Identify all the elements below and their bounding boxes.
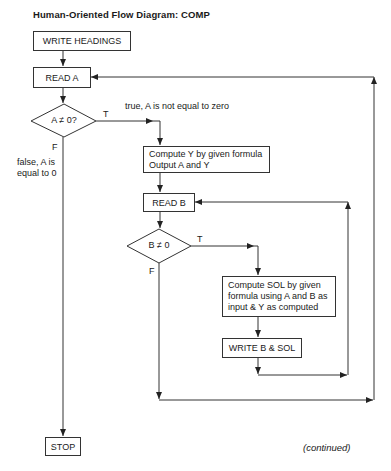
read-a-label: READ A (45, 73, 78, 83)
a-false-note-2: equal to 0 (17, 168, 57, 178)
stop-label: STOP (51, 442, 75, 452)
read-b-box: READ B (143, 193, 195, 212)
compute-sol-line-3: input & Y as computed (228, 302, 318, 313)
b-false-marker: F (149, 266, 155, 276)
write-headings-box: WRITE HEADINGS (33, 31, 131, 51)
a-false-marker: F (52, 142, 58, 152)
a-false-note-1: false, A is (17, 157, 55, 167)
compute-y-line-2: Output A and Y (149, 160, 209, 171)
compute-y-line-1: Compute Y by given formula (149, 149, 262, 160)
write-b-sol-box: WRITE B & SOL (222, 338, 302, 358)
compute-sol-box: Compute SOL by given formula using A and… (222, 276, 336, 317)
write-headings-label: WRITE HEADINGS (43, 36, 122, 46)
write-b-sol-label: WRITE B & SOL (229, 343, 296, 353)
continued-note: (continued) (303, 442, 351, 453)
a-true-marker: T (103, 109, 109, 119)
compute-sol-line-1: Compute SOL by given (228, 280, 321, 291)
read-b-label: READ B (152, 198, 186, 208)
decision-a-label: A ≠ 0? (40, 115, 88, 125)
stop-box: STOP (45, 437, 81, 456)
decision-b-label: B ≠ 0 (136, 240, 182, 250)
compute-y-box: Compute Y by given formula Output A and … (143, 146, 270, 173)
read-a-box: READ A (33, 67, 91, 88)
a-true-note: true, A is not equal to zero (125, 101, 229, 111)
compute-sol-line-2: formula using A and B as (228, 291, 328, 302)
b-true-marker: T (197, 234, 203, 244)
